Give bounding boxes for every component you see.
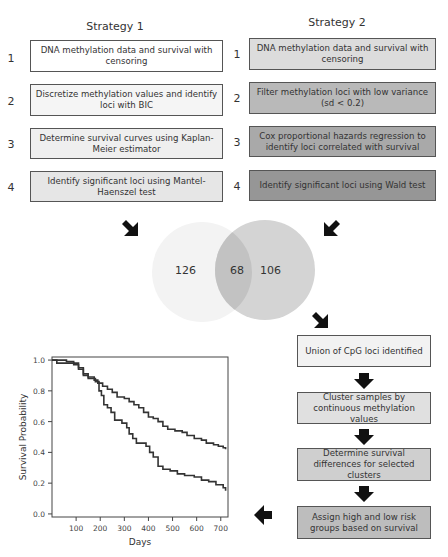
x-tick-label: 200 bbox=[93, 524, 108, 533]
x-axis-label: Days bbox=[129, 537, 152, 547]
x-tick-label: 300 bbox=[117, 524, 132, 533]
flow-step-union-box: Union of CpG loci identified bbox=[297, 335, 431, 367]
arrow-down-icon bbox=[354, 429, 374, 445]
arrow-down-icon bbox=[354, 486, 374, 502]
strategy2-step-1-box: DNA methylation data and survival with c… bbox=[249, 38, 436, 70]
y-axis-label: Survival Probability bbox=[18, 393, 28, 480]
arrow-left-icon bbox=[254, 505, 272, 525]
x-tick-label: 600 bbox=[189, 524, 204, 533]
flow-step-risk-groups-box: Assign high and low risk groups based on… bbox=[297, 506, 431, 539]
y-tick-label: 1.0 bbox=[33, 356, 45, 365]
arrow-down-right-icon bbox=[120, 218, 140, 238]
venn-right-count: 106 bbox=[260, 264, 281, 277]
strategy1-title: Strategy 1 bbox=[60, 20, 170, 33]
strategy1-step-2-number: 2 bbox=[4, 95, 18, 108]
x-tick-label: 700 bbox=[214, 524, 229, 533]
survival-curve-low-risk bbox=[52, 360, 226, 449]
strategy2-step-2-number: 2 bbox=[230, 92, 244, 105]
flow-step-cluster-box: Cluster samples by continuous methylatio… bbox=[297, 392, 431, 424]
flow-step-survival-diff-box: Determine survival differences for selec… bbox=[297, 448, 431, 481]
strategy1-step-4-number: 4 bbox=[4, 181, 18, 194]
venn-overlap-count: 68 bbox=[230, 264, 244, 277]
y-tick-label: 0.4 bbox=[33, 448, 45, 457]
strategy1-step-2-box: Discretize methylation values and identi… bbox=[30, 84, 223, 116]
survival-curve-high-risk bbox=[52, 360, 226, 491]
arrow-down-icon bbox=[354, 373, 374, 389]
strategy2-step-4-number: 4 bbox=[230, 180, 244, 193]
strategy2-step-2-box: Filter methylation loci with low varianc… bbox=[249, 82, 436, 114]
strategy2-step-3-number: 3 bbox=[230, 136, 244, 149]
y-tick-label: 0.2 bbox=[33, 479, 45, 488]
y-tick-label: 0.6 bbox=[33, 418, 45, 427]
y-tick-label: 0.8 bbox=[33, 387, 45, 396]
strategy2-step-3-box: Cox proportional hazards regression to i… bbox=[249, 126, 436, 157]
strategy2-step-1-number: 1 bbox=[230, 48, 244, 61]
venn-left-count: 126 bbox=[175, 264, 196, 277]
x-tick-label: 500 bbox=[165, 524, 180, 533]
strategy1-step-3-number: 3 bbox=[4, 138, 18, 151]
strategy1-step-1-box: DNA methylation data and survival with c… bbox=[30, 40, 223, 72]
arrow-down-left-icon bbox=[322, 218, 342, 238]
strategy1-step-4-box: Identify significant loci using Mantel-H… bbox=[30, 171, 223, 202]
strategy2-step-4-box: Identify significant loci using Wald tes… bbox=[249, 170, 436, 201]
y-tick-label: 0.0 bbox=[33, 510, 45, 519]
strategy1-step-1-number: 1 bbox=[4, 52, 18, 65]
x-tick-label: 400 bbox=[141, 524, 156, 533]
strategy1-step-3-box: Determine survival curves using Kaplan-M… bbox=[30, 128, 223, 159]
plot-frame bbox=[52, 357, 228, 517]
survival-chart: 0.00.20.40.60.81.0100200300400500600700D… bbox=[0, 345, 240, 557]
x-tick-label: 100 bbox=[69, 524, 84, 533]
strategy2-title: Strategy 2 bbox=[282, 16, 392, 29]
